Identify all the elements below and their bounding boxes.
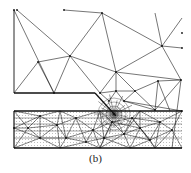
mesh-figure [0,0,191,173]
figure-caption: (b) [0,152,191,164]
